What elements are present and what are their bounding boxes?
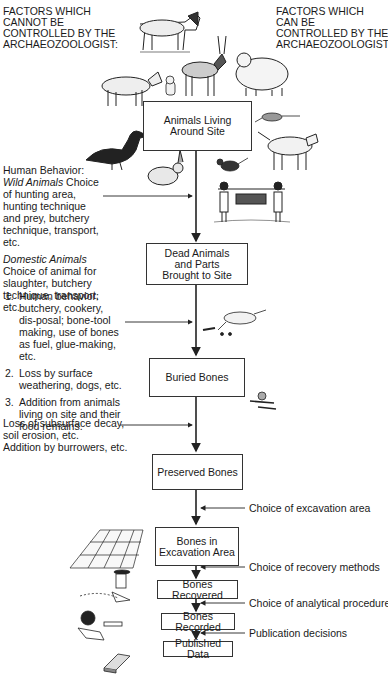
box-buried-bones: Buried Bones <box>149 358 245 397</box>
site-process-factors: 1. Human behavior: butchery, cookery, di… <box>5 290 123 432</box>
site-process-item: 1. Human behavior: butchery, cookery, di… <box>5 290 123 362</box>
excavation-grid-icon <box>70 530 143 568</box>
subsurface-factors: Loss of subsurface decay, soil erosion, … <box>3 417 127 453</box>
cat-icon <box>166 76 175 95</box>
dog-gnawing-bones-icon <box>203 310 266 336</box>
dog-icon <box>258 132 318 170</box>
bird-icon <box>217 158 248 171</box>
archaeologist-recording-icon <box>78 611 122 640</box>
hunters-carrying-animal-icon <box>214 182 290 222</box>
box-preserved-bones: Preserved Bones <box>152 454 243 490</box>
box-bones-recorded: Bones Recorded <box>161 613 235 630</box>
book-icon <box>104 654 130 673</box>
box-published-data: Published Data <box>163 641 233 657</box>
sheep-icon <box>236 53 288 96</box>
factor-analytical-procedures: Choice of analytical procedures <box>249 598 388 609</box>
factor-recovery-methods: Choice of recovery methods <box>249 562 380 573</box>
burrowing-animal-icon <box>250 392 276 409</box>
box-dead-animals-brought-to-site: Dead Animals and Parts Brought to Site <box>146 243 248 285</box>
factor-publication-decisions: Publication decisions <box>249 628 347 639</box>
box-bones-in-excavation-area: Bones in Excavation Area <box>155 527 239 566</box>
archaeologist-excavating-icon <box>80 570 130 602</box>
box-bones-recovered: Bones Recovered <box>157 580 238 599</box>
horse-icon <box>140 12 200 52</box>
wild-animals-factor: Wild Animals Choice of hunting area, hun… <box>3 176 103 248</box>
rabbit-icon <box>148 150 183 185</box>
factor-excavation-area: Choice of excavation area <box>249 503 370 514</box>
box-animals-living-around-site: Animals Living Around Site <box>143 101 252 151</box>
site-process-item: 2. Loss by surface weathering, dogs, etc… <box>5 367 123 391</box>
rat-icon <box>255 113 300 122</box>
antelope-icon <box>182 36 226 96</box>
